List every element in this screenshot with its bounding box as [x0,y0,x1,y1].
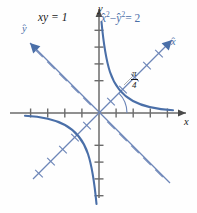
hyperbola-branch-upper-right [102,22,174,110]
hat-accent-x-axis: ˆ [171,37,175,48]
x-hat-axis-label: ˆx [171,37,176,48]
rotated-x-axis-group [33,40,172,179]
angle-label: π 4 [131,69,138,90]
hat-accent-y: ˆ [117,13,121,25]
x-hat-symbol: ˆx [101,13,106,25]
y-hat-symbol: ˆy [116,13,121,25]
equation-rotated-tail: = 2 [125,12,140,24]
equation-label-rotated: ˆx2−ˆy2= 2 [101,11,140,24]
hyperbola-branch-lower-left [25,116,97,204]
x-axis-label: x [184,117,189,128]
hat-accent-y-axis: ˆ [22,24,26,35]
angle-numerator: π [131,69,138,80]
angle-denominator: 4 [131,80,138,90]
x-hat-axis-symbol: ˆx [171,37,176,48]
hat-accent-x: ˆ [101,13,105,25]
y-axis-label: y [98,4,103,15]
figure-canvas [0,0,197,213]
equation-xy-text: xy = 1 [38,11,67,23]
y-axis-label-text: y [98,3,103,14]
equation-label-xy: xy = 1 [38,12,67,24]
x-axis-label-text: x [184,116,189,127]
x-hat-axis-line [33,40,172,179]
y-hat-axis-symbol: ˆy [22,24,27,35]
hyperbola-figure: xy = 1 ˆx2−ˆy2= 2 x y ˆx ˆy π 4 [0,0,197,213]
y-hat-axis-label: ˆy [22,24,27,35]
